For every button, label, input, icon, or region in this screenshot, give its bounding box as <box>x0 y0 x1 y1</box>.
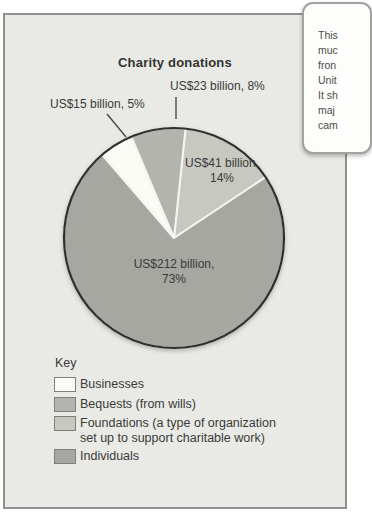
slice-label-foundations-line1: US$41 billion, <box>162 156 282 171</box>
callout-text: ThismucfronUnitIt shmajcam <box>304 4 370 133</box>
slice-label-businesses: US$15 billion, 5% <box>50 97 145 112</box>
slice-label-individuals-line2: 73% <box>104 272 244 287</box>
callout-text-line: This <box>318 28 370 43</box>
legend-label-foundations: Foundations (a type of organization set … <box>80 416 276 446</box>
slice-label-bequests: US$23 billion, 8% <box>170 79 265 94</box>
legend-swatch-foundations <box>54 416 76 431</box>
slice-label-individuals: US$212 billion, 73% <box>104 257 244 286</box>
callout-text-line: It sh <box>318 88 370 103</box>
legend-label-bequests: Bequests (from wills) <box>80 397 196 412</box>
callout-text-line: muc <box>318 43 370 58</box>
legend-swatch-individuals <box>54 449 76 464</box>
legend-label-foundations-line1: Foundations (a type of organization <box>80 416 276 431</box>
slice-label-individuals-line1: US$212 billion, <box>104 257 244 272</box>
legend-row-individuals: Individuals <box>54 449 139 464</box>
legend-swatch-businesses <box>54 377 76 392</box>
slice-label-foundations-line2: 14% <box>162 171 282 186</box>
legend-row-businesses: Businesses <box>54 377 144 392</box>
chart-title: Charity donations <box>3 55 347 70</box>
callout-text-line: fron <box>318 58 370 73</box>
legend-label-foundations-line2: set up to support charitable work) <box>80 431 276 446</box>
legend-row-bequests: Bequests (from wills) <box>54 397 196 412</box>
slice-label-foundations: US$41 billion, 14% <box>162 156 282 185</box>
legend-row-foundations: Foundations (a type of organization set … <box>54 416 276 446</box>
callout-box: ThismucfronUnitIt shmajcam <box>302 2 372 154</box>
callout-text-line: cam <box>318 118 370 133</box>
legend-heading: Key <box>55 356 77 370</box>
legend-label-individuals: Individuals <box>80 449 139 464</box>
callout-text-line: maj <box>318 103 370 118</box>
legend-label-businesses: Businesses <box>80 377 144 392</box>
callout-text-line: Unit <box>318 73 370 88</box>
legend-swatch-bequests <box>54 397 76 412</box>
